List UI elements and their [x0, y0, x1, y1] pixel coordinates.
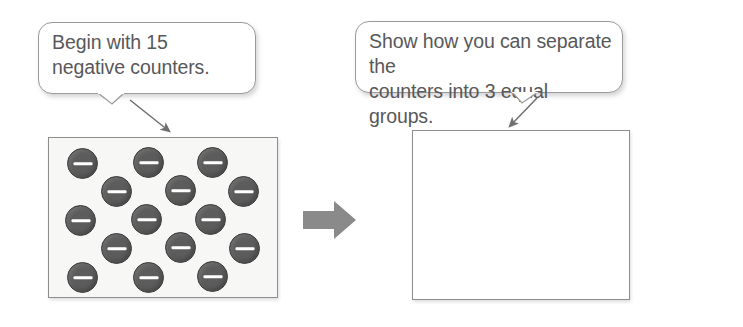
minus-sign-icon — [107, 190, 126, 194]
negative-counter[interactable] — [101, 233, 132, 264]
negative-counter[interactable] — [197, 147, 228, 178]
negative-counter[interactable] — [67, 262, 98, 293]
answer-panel[interactable] — [412, 130, 630, 300]
negative-counter[interactable] — [165, 232, 196, 263]
negative-counter[interactable] — [133, 147, 164, 178]
minus-sign-icon — [73, 276, 92, 280]
illustration-canvas: Begin with 15 negative counters. Show ho… — [0, 0, 743, 327]
callout-begin-text: Begin with 15 negative counters. — [52, 30, 245, 80]
minus-sign-icon — [201, 218, 220, 222]
minus-sign-icon — [171, 189, 190, 193]
callout-separate-into-3-equal-groups: Show how you can separate the counters i… — [355, 21, 623, 93]
negative-counter[interactable] — [133, 262, 164, 293]
negative-counter[interactable] — [197, 261, 228, 292]
negative-counter[interactable] — [101, 176, 132, 207]
minus-sign-icon — [137, 218, 156, 222]
minus-sign-icon — [73, 162, 92, 166]
callout-begin-tail — [98, 93, 124, 105]
negative-counter[interactable] — [229, 233, 260, 264]
minus-sign-icon — [139, 161, 158, 165]
negative-counter[interactable] — [195, 204, 226, 235]
callout-separate-text: Show how you can separate the counters i… — [369, 29, 612, 129]
minus-sign-icon — [234, 190, 253, 194]
callout-begin-with-15-negative-counters: Begin with 15 negative counters. — [38, 22, 256, 94]
minus-sign-icon — [139, 276, 158, 280]
flow-arrow-icon — [303, 200, 357, 240]
minus-sign-icon — [235, 247, 254, 251]
minus-sign-icon — [203, 161, 222, 165]
counter-panel — [48, 137, 278, 298]
negative-counter[interactable] — [165, 175, 196, 206]
negative-counter[interactable] — [131, 204, 162, 235]
negative-counter[interactable] — [228, 176, 259, 207]
minus-sign-icon — [71, 219, 90, 223]
negative-counter[interactable] — [65, 205, 96, 236]
minus-sign-icon — [107, 247, 126, 251]
minus-sign-icon — [171, 246, 190, 250]
minus-sign-icon — [203, 275, 222, 279]
negative-counter[interactable] — [67, 148, 98, 179]
